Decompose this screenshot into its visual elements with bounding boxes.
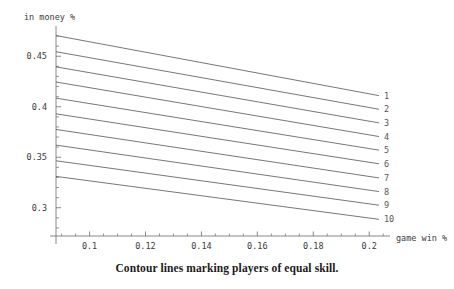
contour-line-label: 1 [384,91,389,101]
x-axis-tick-label: 0.14 [191,241,211,251]
y-axis-title: in money % [24,12,75,22]
axes-layer [50,26,390,244]
x-axis-tick-label: 0.1 [82,241,97,251]
contour-line-label: 3 [384,118,389,128]
contour-line [56,145,379,191]
contour-line [56,114,379,164]
contour-line [56,67,379,123]
x-axis-tick-label: 0.16 [247,241,267,251]
contour-line-label: 4 [384,132,389,142]
contour-line-label: 5 [384,145,389,155]
contour-chart-figure: 0.10.120.140.160.180.20.30.350.40.45 in … [0,0,454,289]
chart-canvas: 0.10.120.140.160.180.20.30.350.40.45 in … [0,0,454,289]
y-axis-tick-label: 0.45 [27,51,47,61]
contour-line [56,52,379,110]
contour-labels-layer: 12345678910 [384,91,394,225]
x-axis-title: game win % [396,233,447,243]
y-axis-tick-label: 0.4 [32,102,47,112]
x-axis-tick-label: 0.18 [303,241,323,251]
contour-line-label: 8 [384,187,389,197]
x-axis-tick-label: 0.12 [135,241,155,251]
contour-line-label: 9 [384,200,389,210]
contour-line-label: 10 [384,214,394,224]
contour-line-label: 6 [384,159,389,169]
contour-line [56,82,379,137]
contour-line [56,129,379,177]
contour-line-label: 7 [384,173,389,183]
contour-line-label: 2 [384,104,389,114]
contour-line [56,98,379,150]
contour-line [56,36,379,96]
x-axis-tick-label: 0.2 [362,241,377,251]
y-axis-tick-label: 0.35 [27,152,47,162]
y-axis-tick-label: 0.3 [32,203,47,213]
contour-lines-layer [56,36,379,220]
figure-caption: Contour lines marking players of equal s… [0,262,454,274]
